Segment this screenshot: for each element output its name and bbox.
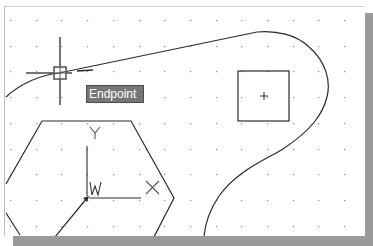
osnap-tooltip-label: Endpoint <box>89 87 136 101</box>
hexagon-upper[interactable] <box>6 121 174 236</box>
endpoint-marker-icon <box>54 67 66 79</box>
osnap-tooltip: Endpoint <box>86 85 144 103</box>
drawing-canvas[interactable] <box>5 7 365 236</box>
square-with-center-mark[interactable] <box>238 71 289 121</box>
drawing-viewport[interactable]: Endpoint <box>4 6 365 236</box>
ucs-icon <box>87 127 159 198</box>
curved-outline[interactable] <box>6 32 328 236</box>
screenshot-frame: Endpoint <box>0 0 373 246</box>
diagonal-line[interactable] <box>55 198 87 236</box>
hexagon[interactable] <box>6 213 20 235</box>
